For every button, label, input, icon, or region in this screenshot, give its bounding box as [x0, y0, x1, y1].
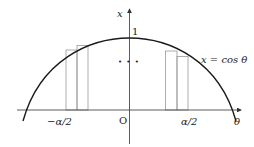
- cosine-diagram: x 1 • • • x = cos θ −α/2 O α/2 θ: [0, 0, 254, 147]
- curve-label: x = cos θ: [201, 54, 247, 65]
- right-strips: [166, 51, 189, 110]
- left-strip-1: [66, 50, 77, 110]
- peak-label: 1: [132, 26, 138, 37]
- x-axis-label: θ: [234, 116, 240, 127]
- right-strip-1: [166, 51, 178, 110]
- right-strip-2: [177, 57, 188, 111]
- left-strip-2: [77, 46, 88, 111]
- left-tick-label: −α/2: [47, 116, 72, 127]
- right-tick-label: α/2: [181, 116, 197, 127]
- origin-label: O: [119, 115, 127, 126]
- ellipsis: • • •: [118, 58, 140, 66]
- y-axis-label: x: [117, 8, 123, 19]
